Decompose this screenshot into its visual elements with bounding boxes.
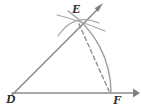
arrowhead-horizontal-right xyxy=(133,89,140,98)
point-label-E: E xyxy=(72,2,81,15)
point-label-F: F xyxy=(113,93,122,106)
point-label-D: D xyxy=(6,92,15,105)
arc-E-to-F xyxy=(68,11,111,93)
geometry-figure: D E F xyxy=(0,0,141,112)
ray-DE xyxy=(12,9,98,95)
